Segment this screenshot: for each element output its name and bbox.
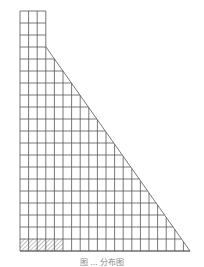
hatched-cell bbox=[46, 239, 55, 251]
hatched-cell bbox=[29, 239, 38, 251]
diagonal-edge bbox=[46, 47, 190, 251]
hatched-cell bbox=[20, 239, 29, 251]
hatched-cell bbox=[54, 239, 63, 251]
figure-caption: 图 ... 分布图 bbox=[0, 256, 204, 267]
hatched-cell bbox=[37, 239, 46, 251]
